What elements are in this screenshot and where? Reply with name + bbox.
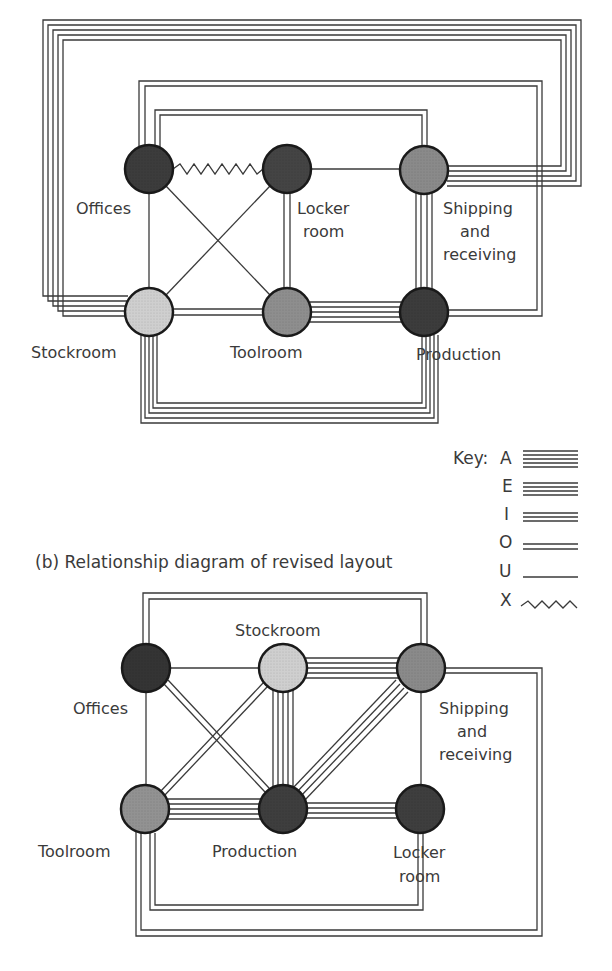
node-b-shipping [397, 644, 445, 692]
caption-b: (b) Relationship diagram of revised layo… [35, 552, 393, 572]
label-a-locker-line1: Locker [297, 199, 350, 218]
node-a-offices [125, 145, 173, 193]
label-a-offices: Offices [76, 199, 131, 218]
label-a-stockroom: Stockroom [31, 343, 117, 362]
key-swatch-i [523, 513, 578, 521]
key-swatch-a [523, 451, 578, 467]
label-b-shipping-line2: and [457, 722, 487, 741]
node-b-stockroom [259, 644, 307, 692]
edge-b-toolroom-production-A [168, 799, 261, 819]
node-a-stockroom [125, 288, 173, 336]
label-b-toolroom: Toolroom [37, 842, 110, 861]
edge-a-stockroom-toolroom-O [173, 309, 263, 315]
edge-b-stockroom-production-A [273, 690, 293, 787]
key-code-e: E [502, 476, 513, 496]
node-b-locker-room [396, 785, 444, 833]
key-code-i: I [504, 504, 509, 524]
node-b-offices [122, 644, 170, 692]
key-swatch-x [521, 601, 577, 608]
diagram-a-labels: Offices Locker room Shipping and receivi… [31, 199, 516, 364]
label-a-toolroom: Toolroom [229, 343, 302, 362]
key-swatch-o [523, 544, 578, 549]
node-a-shipping [400, 146, 448, 194]
label-b-shipping-line1: Shipping [439, 699, 509, 718]
key-code-o: O [499, 532, 512, 552]
diagram-b [136, 593, 542, 936]
edge-b-production-locker-E [306, 803, 398, 818]
label-a-shipping-line3: receiving [443, 245, 516, 264]
edge-b-shipping-production-E [292, 680, 408, 801]
legend-key: Key: A E I O U X [453, 448, 578, 610]
edge-a-toolroom-production-A [310, 302, 401, 322]
diagram-a-nodes [125, 145, 448, 336]
label-b-offices: Offices [73, 699, 128, 718]
key-title: Key: [453, 448, 488, 468]
label-a-shipping-line2: and [460, 222, 490, 241]
edge-a-offices-locker-X [173, 164, 263, 174]
relationship-diagram-figure: Offices Locker room Shipping and receivi… [0, 0, 612, 971]
label-b-locker-line2: room [399, 867, 440, 886]
top-caption-partial [0, 0, 612, 4]
node-b-production [259, 785, 307, 833]
node-a-production [400, 288, 448, 336]
key-code-u: U [499, 561, 511, 581]
edge-b-stockroom-toolroom-O [160, 682, 268, 796]
edge-a-locker-toolroom-O [284, 193, 290, 288]
label-a-shipping-line1: Shipping [443, 199, 513, 218]
key-code-x: X [500, 590, 512, 610]
label-b-stockroom: Stockroom [235, 621, 321, 640]
label-b-locker-line1: Locker [393, 843, 446, 862]
label-a-locker-line2: room [303, 222, 344, 241]
edge-b-offices-production-O [164, 680, 269, 792]
label-a-production: Production [416, 345, 501, 364]
node-a-toolroom [263, 288, 311, 336]
node-b-toolroom [121, 785, 169, 833]
key-code-a: A [500, 448, 512, 468]
edge-a-offices-shipping-O [155, 110, 427, 148]
key-swatch-e [523, 483, 578, 495]
label-b-production: Production [212, 842, 297, 861]
edge-b-stockroom-shipping-A [306, 658, 399, 678]
label-b-shipping-line3: receiving [439, 745, 512, 764]
edge-a-shipping-production-E [416, 193, 432, 289]
node-a-locker-room [263, 145, 311, 193]
